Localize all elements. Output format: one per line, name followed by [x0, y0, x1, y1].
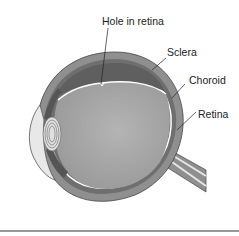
label-sclera: Sclera	[167, 46, 197, 58]
label-retina: Retina	[198, 108, 228, 120]
lens	[43, 117, 61, 151]
eye-diagram: Hole in retina Sclera Choroid Retina	[0, 0, 239, 236]
label-choroid: Choroid	[189, 74, 226, 86]
bottom-divider	[0, 230, 239, 232]
label-hole-in-retina: Hole in retina	[102, 15, 164, 27]
